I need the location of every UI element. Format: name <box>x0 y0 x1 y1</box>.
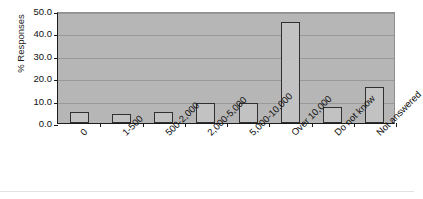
bar <box>70 112 89 123</box>
x-axis-tick-labels: 01-500500-2,0002,000-5,0005,000-10,000Ov… <box>57 124 395 199</box>
page-artifact-line <box>0 191 414 192</box>
bar <box>323 107 342 123</box>
y-tick-label: 10.0 <box>18 96 52 107</box>
y-tick-label: 0.0 <box>18 118 52 129</box>
y-axis-tick-labels: 50.040.030.020.010.00.0 <box>12 0 52 199</box>
x-tick-mark <box>396 123 397 127</box>
y-tick-label: 30.0 <box>18 51 52 62</box>
y-tick-label: 50.0 <box>18 6 52 17</box>
y-tick-label: 40.0 <box>18 28 52 39</box>
x-tick-label: 0 <box>78 126 90 138</box>
y-tick-label: 20.0 <box>18 73 52 84</box>
bars-container <box>58 13 394 123</box>
